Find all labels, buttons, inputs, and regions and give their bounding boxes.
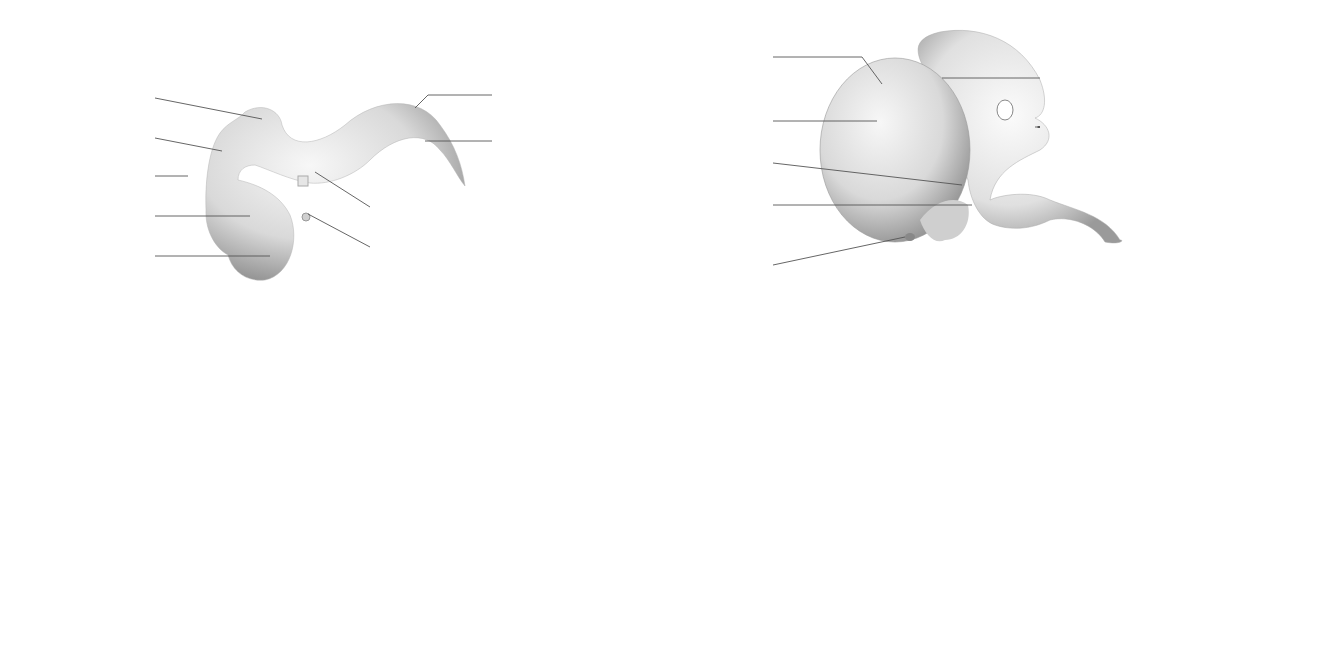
embryonic-brain-illustration-b [820,30,1122,243]
leader-line [155,98,262,119]
panel-b [773,30,1122,265]
leader-line [155,138,222,151]
brain-development-figure [0,0,1323,659]
panel-a [155,95,492,280]
embryonic-brain-illustration-a [206,104,465,281]
leader-line [773,237,905,265]
leader-line [308,214,370,247]
leader-line [415,95,492,108]
